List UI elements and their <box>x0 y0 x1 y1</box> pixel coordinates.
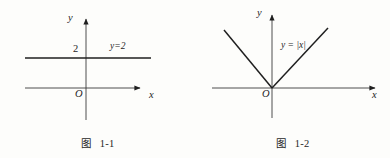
x-axis-label-1-2: x <box>372 90 377 101</box>
y-axis-label-1-2: y <box>257 8 262 19</box>
figure-caption-word-1-1: 图 <box>81 138 91 149</box>
curve-label-1-1: y=2 <box>110 42 125 52</box>
figure-caption-word-1-2: 图 <box>276 138 286 149</box>
origin-label-1-1: O <box>75 89 83 100</box>
y-tick-label-2: 2 <box>73 44 78 55</box>
plot-area-1-2 <box>195 0 390 132</box>
figure-panel-1-2: y y = |x| O x 图1-2 <box>195 0 390 158</box>
curve-label-1-2: y = |x| <box>281 41 306 51</box>
plot-area-1-1 <box>0 0 195 132</box>
figure-caption-number-1-1: 1-1 <box>100 138 115 149</box>
figure-caption-1-2: 图1-2 <box>195 135 390 150</box>
figure-caption-number-1-2: 1-2 <box>295 138 310 149</box>
curve-abs-x-left-branch <box>224 30 272 88</box>
figure-caption-1-1: 图1-1 <box>0 135 195 150</box>
origin-label-1-2: O <box>262 89 270 100</box>
x-axis-label-1-1: x <box>149 90 154 101</box>
figure-panel-1-1: y 2 y=2 O x 图1-1 <box>0 0 195 158</box>
y-axis-label-1-1: y <box>68 13 73 24</box>
curve-abs-x-right-branch <box>272 28 328 88</box>
figure-sheet: y 2 y=2 O x 图1-1 y y = |x| <box>0 0 390 158</box>
